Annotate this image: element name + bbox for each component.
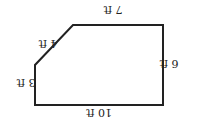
label-left: 3 ft bbox=[16, 76, 36, 89]
label-right: 6 ft bbox=[159, 57, 179, 70]
label-diagonal: 4 ft bbox=[38, 37, 58, 50]
label-bottom: 10 ft bbox=[85, 106, 112, 119]
label-top: 7 ft bbox=[103, 3, 123, 16]
shape-diagram: 7 ft 6 ft 10 ft 3 ft 4 ft bbox=[0, 0, 197, 128]
pentagon-outline bbox=[35, 25, 163, 105]
